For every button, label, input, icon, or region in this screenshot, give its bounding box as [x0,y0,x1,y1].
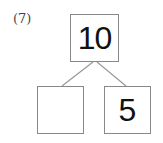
known-part-box: 5 [104,86,151,134]
whole-number-box: 10 [70,14,119,62]
known-part-value: 5 [119,92,137,129]
missing-part-answer-box[interactable] [37,86,84,134]
whole-number: 10 [78,20,112,57]
